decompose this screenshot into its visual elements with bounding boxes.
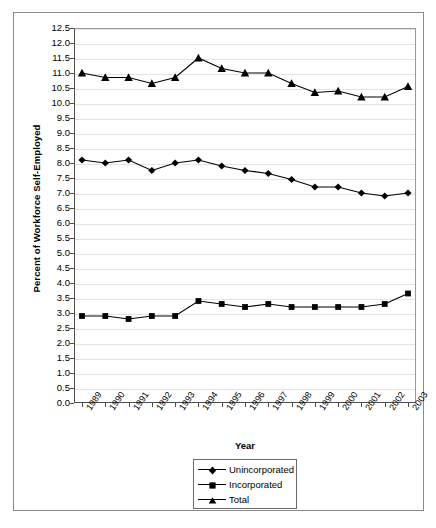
data-point-marker — [405, 291, 411, 297]
series-unincorporated — [78, 156, 411, 199]
chart-legend: Unincorporated Incorporated Total — [193, 459, 297, 509]
y-tick-label: 1.0 — [57, 368, 70, 378]
legend-label: Incorporated — [226, 480, 282, 490]
y-tick-label: 8.0 — [57, 158, 70, 168]
y-tick-label: 4.5 — [57, 263, 70, 273]
y-tick-label: 9.0 — [57, 128, 70, 138]
data-point-marker — [102, 159, 109, 166]
data-point-marker — [78, 69, 86, 77]
y-tick-label: 2.0 — [57, 338, 70, 348]
y-tick-label: 4.0 — [57, 278, 70, 288]
data-point-marker — [381, 192, 388, 199]
y-tick-label: 10.0 — [52, 98, 71, 108]
y-tick-label: 7.5 — [57, 173, 70, 183]
data-point-marker — [265, 301, 271, 307]
legend-square-icon — [198, 479, 226, 491]
data-point-marker — [287, 79, 295, 87]
series-line — [82, 58, 408, 97]
y-tick-label: 2.5 — [57, 323, 70, 333]
y-tick-label: 8.5 — [57, 143, 70, 153]
data-point-marker — [265, 170, 272, 177]
data-point-marker — [125, 156, 132, 163]
data-point-marker — [149, 313, 155, 319]
data-point-marker — [404, 82, 412, 90]
data-point-marker — [404, 189, 411, 196]
legend-triangle-icon — [198, 494, 226, 506]
data-point-marker — [312, 304, 318, 310]
series-line — [82, 160, 408, 196]
legend-item-unincorporated[interactable]: Unincorporated — [198, 463, 292, 477]
series-total — [78, 54, 412, 101]
legend-item-total[interactable]: Total — [198, 493, 292, 507]
data-point-marker — [218, 64, 226, 72]
data-point-marker — [126, 316, 132, 322]
data-point-marker — [172, 313, 178, 319]
data-point-marker — [219, 301, 225, 307]
data-point-marker — [335, 304, 341, 310]
y-tick-label: 7.0 — [57, 188, 70, 198]
data-point-marker — [358, 189, 365, 196]
data-point-marker — [289, 304, 295, 310]
data-point-marker — [359, 304, 365, 310]
data-point-marker — [311, 183, 318, 190]
series-incorporated — [79, 291, 411, 322]
data-point-marker — [241, 167, 248, 174]
data-point-marker — [334, 87, 342, 95]
data-point-marker — [78, 156, 85, 163]
data-point-marker — [218, 162, 225, 169]
legend-diamond-icon — [198, 464, 226, 476]
y-tick-label: 3.0 — [57, 308, 70, 318]
y-tick-label: 5.0 — [57, 248, 70, 258]
plot-region — [74, 28, 416, 403]
y-tick-label: 12.0 — [52, 38, 71, 48]
chart-figure: Percent of Workforce Self-Employed 0.00.… — [13, 12, 424, 511]
legend-label: Total — [226, 495, 249, 505]
y-axis-tick-labels: 0.00.51.01.52.02.53.03.54.04.55.05.56.06… — [32, 28, 70, 403]
legend-item-incorporated[interactable]: Incorporated — [198, 478, 292, 492]
data-point-marker — [196, 298, 202, 304]
legend-label: Unincorporated — [226, 465, 294, 475]
data-point-marker — [172, 159, 179, 166]
x-axis-title: Year — [74, 440, 416, 451]
y-tick-label: 6.5 — [57, 203, 70, 213]
y-tick-label: 0.0 — [57, 398, 70, 408]
y-tick-label: 5.5 — [57, 233, 70, 243]
y-tick-label: 6.0 — [57, 218, 70, 228]
data-point-marker — [195, 156, 202, 163]
data-point-marker — [242, 304, 248, 310]
series-layer — [74, 28, 416, 403]
y-tick-label: 11.0 — [52, 68, 70, 78]
data-point-marker — [79, 313, 85, 319]
y-tick-label: 11.5 — [52, 53, 70, 63]
data-point-marker — [194, 54, 202, 62]
y-tick-label: 1.5 — [57, 353, 70, 363]
y-tick-label: 10.5 — [52, 83, 71, 93]
data-point-marker — [148, 167, 155, 174]
y-tick-label: 9.5 — [57, 113, 70, 123]
y-tick-label: 0.5 — [57, 383, 70, 393]
data-point-marker — [335, 183, 342, 190]
y-tick-label: 3.5 — [57, 293, 70, 303]
data-point-marker — [102, 313, 108, 319]
data-point-marker — [288, 176, 295, 183]
y-tick-label: 12.5 — [52, 23, 71, 33]
data-point-marker — [382, 301, 388, 307]
